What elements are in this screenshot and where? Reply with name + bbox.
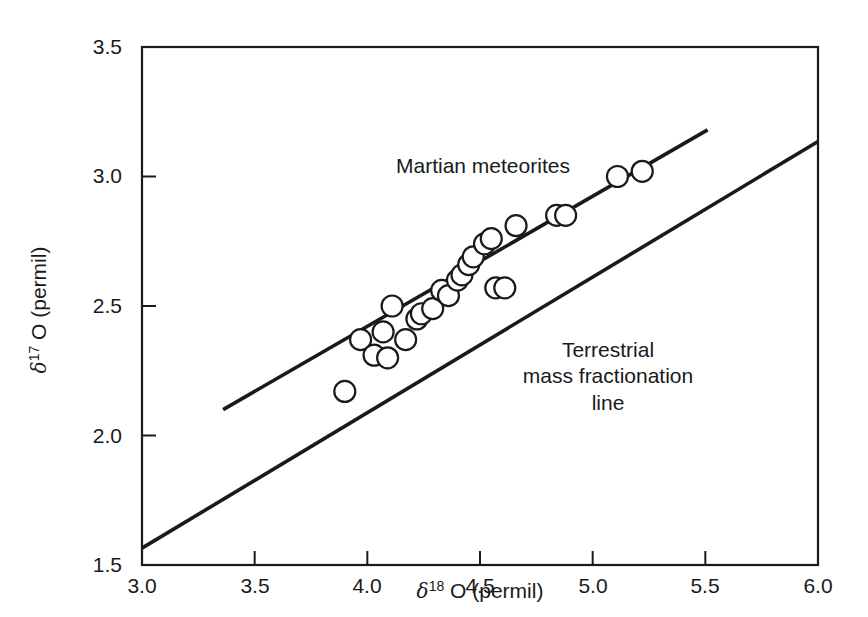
plot-canvas	[0, 0, 868, 617]
y-tick-label-1-5: 1.5	[62, 553, 122, 577]
y-tick-label-2-5: 2.5	[62, 294, 122, 318]
data-point-marker	[555, 205, 576, 226]
data-point-marker	[395, 329, 416, 350]
y-axis-delta-symbol: δ	[27, 361, 51, 373]
y-tick-label-3-5: 3.5	[62, 35, 122, 59]
data-point-marker	[382, 296, 403, 317]
data-point-marker	[506, 215, 527, 236]
data-point-marker	[373, 321, 394, 342]
x-tick-label-4-0: 4.0	[352, 574, 381, 598]
x-tick-label-3-5: 3.5	[240, 574, 269, 598]
data-point-marker	[632, 161, 653, 182]
x-tick-label-3-0: 3.0	[127, 574, 156, 598]
x-tick-label-6-0: 6.0	[803, 574, 832, 598]
terrestrial-annotation-line-1: Terrestrial	[523, 337, 693, 363]
oxygen-isotope-scatter-figure: 3.5 3.0 2.5 2.0 1.5 3.0 3.5 4.0 4.5 5.0 …	[0, 0, 868, 617]
data-point-marker	[481, 228, 502, 249]
y-axis-title: δ17 O (permil)	[26, 247, 51, 374]
x-axis-unit-text: O (permil)	[444, 579, 543, 602]
x-tick-label-5-0: 5.0	[578, 574, 607, 598]
x-axis-title: δ18 O (permil)	[417, 578, 544, 603]
y-tick-label-2-0: 2.0	[62, 424, 122, 448]
y-axis-isotope-number: 17	[26, 346, 42, 362]
terrestrial-annotation-line-2: mass fractionation	[523, 363, 693, 389]
trend-line-2	[142, 142, 818, 549]
x-axis-isotope-number: 18	[429, 578, 445, 594]
x-axis-delta-symbol: δ	[417, 579, 429, 603]
data-point-marker	[377, 347, 398, 368]
data-point-marker	[334, 381, 355, 402]
y-axis-unit-text: O (permil)	[27, 247, 50, 346]
y-tick-label-3-0: 3.0	[62, 164, 122, 188]
terrestrial-line-annotation: Terrestrial mass fractionation line	[523, 337, 693, 416]
terrestrial-annotation-line-3: line	[523, 390, 693, 416]
data-point-marker	[494, 277, 515, 298]
data-point-marker	[607, 166, 628, 187]
martian-meteorites-annotation: Martian meteorites	[396, 153, 570, 179]
x-tick-label-5-5: 5.5	[690, 574, 719, 598]
